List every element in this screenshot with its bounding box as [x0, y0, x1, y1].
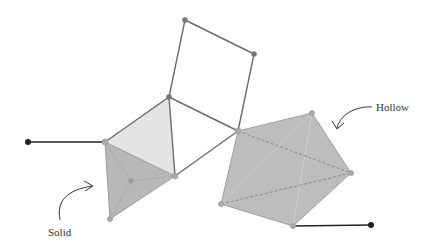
left-anchor-dot: [25, 139, 31, 145]
hollow-label: Hollow: [376, 101, 409, 113]
right-anchor-dot: [368, 222, 374, 228]
vertices: [166, 17, 257, 100]
solid-arrow: [59, 186, 92, 220]
right-anchor-line: [293, 225, 371, 226]
solid-inner-vertex: [129, 179, 134, 184]
simplicial-complex-diagram: Solid Hollow: [0, 0, 432, 249]
solid-label: Solid: [48, 226, 72, 238]
